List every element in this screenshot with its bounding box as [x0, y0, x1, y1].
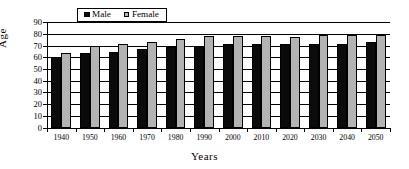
bar-group — [337, 24, 357, 128]
y-axis-tick-label: 0 — [38, 123, 42, 132]
y-axis-tick-label: 30 — [34, 88, 43, 97]
x-axis-tick-label: 2050 — [368, 134, 384, 142]
x-axis-tick — [390, 128, 391, 132]
bar-group — [109, 24, 129, 128]
bar-group — [366, 24, 386, 128]
y-axis-tick — [43, 92, 47, 93]
x-axis-tick — [333, 128, 334, 132]
y-axis-tick — [43, 81, 47, 82]
x-axis-tick-label: 2030 — [311, 134, 327, 142]
x-axis-tick-label: 2040 — [339, 134, 355, 142]
bar-female — [176, 39, 186, 128]
bar-male — [109, 52, 119, 128]
bar-group — [280, 24, 300, 128]
x-axis-tick-label: 1960 — [111, 134, 127, 142]
y-axis-tick — [43, 69, 47, 70]
x-axis-tick-label: 2020 — [282, 134, 298, 142]
x-axis-tick — [133, 128, 134, 132]
chart-figure: Male Female 0102030405060708090 19401950… — [0, 0, 409, 169]
bar-male — [309, 44, 319, 127]
x-axis-tick — [276, 128, 277, 132]
bar-female — [347, 35, 357, 128]
bar-group — [51, 24, 71, 128]
bar-male — [194, 46, 204, 128]
bar-male — [280, 44, 290, 127]
x-axis-tick — [361, 128, 362, 132]
bar-female — [90, 46, 100, 128]
bar-female — [376, 35, 386, 128]
bar-female — [204, 36, 214, 127]
y-axis-tick-label: 50 — [34, 65, 43, 74]
y-axis-tick-label: 80 — [34, 30, 43, 39]
x-axis-title: Years — [0, 150, 409, 162]
bar-group — [194, 24, 214, 128]
legend-label-male: Male — [92, 10, 111, 19]
x-axis-tick — [247, 128, 248, 132]
x-axis-tick-label: 2000 — [225, 134, 241, 142]
bar-male — [337, 44, 347, 127]
y-axis-tick — [43, 22, 47, 23]
bar-male — [51, 57, 61, 127]
bar-group — [309, 24, 329, 128]
bar-female — [319, 35, 329, 128]
bar-male — [137, 49, 147, 127]
bar-female — [261, 36, 271, 127]
legend-item-female: Female — [124, 10, 159, 19]
x-axis-tick-label: 1940 — [53, 134, 69, 142]
bar-male — [252, 44, 262, 127]
bar-group — [137, 24, 157, 128]
legend-swatch-female-icon — [124, 12, 130, 18]
bar-female — [118, 44, 128, 127]
y-axis-tick-label: 20 — [34, 100, 43, 109]
legend-swatch-male-icon — [84, 12, 90, 18]
x-axis-tick-label: 1990 — [196, 134, 212, 142]
y-axis-tick-label: 60 — [34, 53, 43, 62]
plot-area: 0102030405060708090 19401950196019701980… — [47, 22, 390, 129]
bar-group — [166, 24, 186, 128]
bar-female — [147, 42, 157, 127]
bar-male — [166, 47, 176, 128]
x-axis-tick — [104, 128, 105, 132]
bar-male — [223, 44, 233, 127]
x-axis-tick — [190, 128, 191, 132]
y-axis-tick — [43, 116, 47, 117]
chart-legend: Male Female — [77, 8, 167, 22]
legend-item-male: Male — [84, 10, 111, 19]
bar-group — [223, 24, 243, 128]
y-axis-tick — [43, 34, 47, 35]
y-axis-tick — [43, 46, 47, 47]
bar-group — [252, 24, 272, 128]
bar-male — [366, 42, 376, 127]
x-axis-tick-label: 1970 — [139, 134, 155, 142]
bar-female — [233, 36, 243, 127]
x-axis-tick — [304, 128, 305, 132]
x-axis-tick-label: 1980 — [168, 134, 184, 142]
y-axis-tick — [43, 57, 47, 58]
y-axis-tick-label: 40 — [34, 77, 43, 86]
x-axis-tick — [47, 128, 48, 132]
legend-label-female: Female — [132, 10, 159, 19]
y-axis-tick-label: 10 — [34, 112, 43, 121]
x-axis-tick — [76, 128, 77, 132]
y-axis-tick — [43, 104, 47, 105]
bar-female — [61, 53, 71, 128]
x-axis-tick — [219, 128, 220, 132]
bar-group — [80, 24, 100, 128]
x-axis-tick-label: 1950 — [82, 134, 98, 142]
y-axis-tick-label: 90 — [34, 18, 43, 27]
bar-male — [80, 53, 90, 128]
x-axis-tick-label: 2010 — [254, 134, 270, 142]
y-axis-title: Age — [0, 28, 8, 48]
x-axis-tick — [161, 128, 162, 132]
y-axis-line — [47, 22, 48, 129]
y-axis-tick-label: 70 — [34, 41, 43, 50]
bar-female — [290, 37, 300, 127]
